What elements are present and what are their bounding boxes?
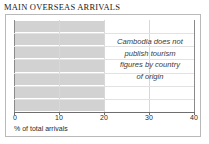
chart-title: MAIN OVERSEAS ARRIVALS [4,2,120,12]
horizontal-gridline [14,33,194,34]
x-axis-caption: % of total arrivals [14,125,68,132]
annotation-line: Cambodia does not [104,36,196,48]
horizontal-gridline [14,86,194,87]
x-axis-tick-label: 20 [100,114,108,121]
annotation-line: of origin [104,71,196,83]
chart-figure: MAIN OVERSEAS ARRIVALS 010203040 % of to… [0,0,209,144]
annotation-line: publish tourism [104,48,196,60]
x-axis-tick-label: 0 [13,114,17,121]
annotation-line: figures by country [104,59,196,71]
x-axis-tick-label: 40 [190,114,198,121]
x-axis-tick-label: 30 [145,114,153,121]
horizontal-gridline [14,99,194,100]
x-axis-tick-label: 10 [55,114,63,121]
chart-annotation: Cambodia does notpublish tourismfigures … [104,36,196,82]
